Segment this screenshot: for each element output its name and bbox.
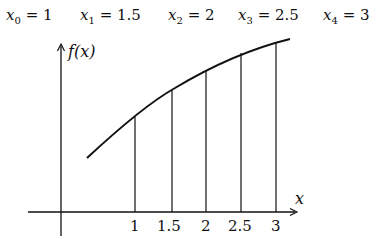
curve-f bbox=[87, 39, 290, 158]
tick-1-5: 1.5 bbox=[157, 219, 181, 234]
tick-2-5: 2.5 bbox=[228, 219, 252, 234]
plot-svg bbox=[0, 0, 377, 239]
tick-1: 1 bbox=[130, 219, 140, 234]
diagram: x0 = 1 x1 = 1.5 x2 = 2 x3 = 2.5 x4 = 3 f… bbox=[0, 0, 377, 239]
y-axis-label: f(x) bbox=[68, 44, 95, 60]
tick-3: 3 bbox=[271, 219, 281, 234]
tick-2: 2 bbox=[201, 219, 211, 234]
x-axis-label: x bbox=[295, 191, 304, 207]
